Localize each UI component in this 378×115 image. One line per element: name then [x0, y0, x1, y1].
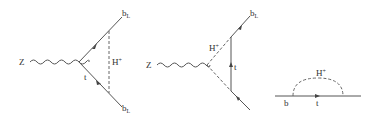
- diagram-2: Z H+ t bL: [146, 8, 259, 110]
- top-quark-label: t: [84, 72, 87, 82]
- diagram-1: Z H+ t bL bL: [19, 8, 131, 114]
- charged-higgs-dashed-line: [207, 65, 231, 91]
- feynman-diagrams: Z H+ t bL bL Z H+ t bL H+ b t: [0, 0, 378, 115]
- bottom-fermion-line: [79, 62, 122, 107]
- higgs-label: H+: [316, 68, 327, 78]
- top-quark-label: t: [234, 62, 237, 72]
- arrow-icon: [236, 96, 240, 101]
- incoming-b-line: [231, 91, 250, 110]
- diagram-3: H+ b t: [275, 68, 361, 108]
- top-quark-label: t: [316, 98, 319, 108]
- z-boson-wavy-line: [157, 63, 210, 67]
- charged-higgs-loop: [293, 78, 343, 96]
- higgs-label: H+: [112, 57, 123, 67]
- b-quark-top-label: bL: [122, 8, 131, 19]
- b-quark-label: b: [284, 98, 289, 108]
- z-boson-label: Z: [146, 60, 152, 70]
- top-fermion-line: [79, 17, 122, 62]
- arrow-icon: [229, 62, 233, 67]
- b-quark-bottom-label: bL: [122, 103, 131, 114]
- z-boson-label: Z: [19, 57, 25, 67]
- b-quark-top-label: bL: [250, 8, 259, 19]
